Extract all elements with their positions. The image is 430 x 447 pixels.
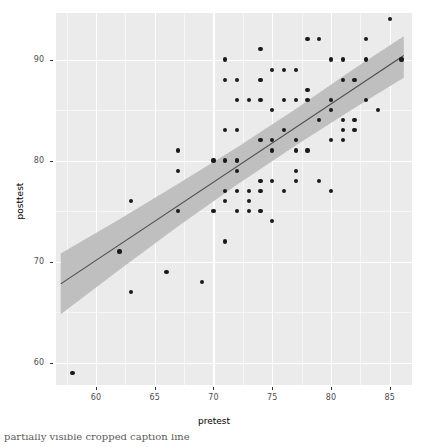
data-point xyxy=(282,98,286,102)
y-tick-mark xyxy=(50,262,53,263)
data-point xyxy=(223,158,227,162)
data-point xyxy=(176,148,180,152)
data-point xyxy=(341,118,345,122)
data-point xyxy=(200,280,204,284)
cropped-caption-strip: partially visible cropped caption line xyxy=(0,434,430,447)
data-point xyxy=(235,169,239,173)
data-point xyxy=(258,78,262,82)
x-tick-label: 80 xyxy=(318,393,344,402)
data-point xyxy=(352,118,356,122)
x-tick-label: 65 xyxy=(142,393,168,402)
data-point xyxy=(247,98,251,102)
y-tick-label: 70 xyxy=(18,257,44,266)
data-point xyxy=(211,158,215,162)
data-point xyxy=(388,17,392,21)
data-point xyxy=(223,239,227,243)
x-tick-mark xyxy=(272,387,273,390)
x-tick-label: 75 xyxy=(259,393,285,402)
x-tick-mark xyxy=(213,387,214,390)
data-point xyxy=(176,169,180,173)
x-tick-mark xyxy=(331,387,332,390)
data-point xyxy=(235,78,239,82)
data-point xyxy=(270,148,274,152)
data-point xyxy=(282,189,286,193)
data-point xyxy=(294,148,298,152)
x-tick-label: 85 xyxy=(377,393,403,402)
y-axis-title: posttest xyxy=(15,171,25,231)
data-point xyxy=(294,179,298,183)
y-tick-mark xyxy=(50,161,53,162)
data-point xyxy=(282,68,286,72)
data-point xyxy=(223,57,227,61)
data-point xyxy=(117,249,121,253)
y-tick-label: 60 xyxy=(18,358,44,367)
data-point xyxy=(235,189,239,193)
data-point xyxy=(399,57,403,61)
caption-text: partially visible cropped caption line xyxy=(4,434,190,442)
data-point xyxy=(329,57,333,61)
data-point xyxy=(305,98,309,102)
data-point xyxy=(294,98,298,102)
x-axis-title: pretest xyxy=(174,416,254,426)
y-tick-mark xyxy=(50,363,53,364)
data-point xyxy=(70,371,74,375)
data-point xyxy=(364,57,368,61)
y-tick-mark xyxy=(50,60,53,61)
data-point xyxy=(294,68,298,72)
data-point xyxy=(305,148,309,152)
data-point xyxy=(341,57,345,61)
y-tick-label: 80 xyxy=(18,156,44,165)
data-point xyxy=(258,189,262,193)
data-point xyxy=(352,128,356,132)
data-point xyxy=(329,189,333,193)
data-point xyxy=(329,98,333,102)
x-tick-mark xyxy=(155,387,156,390)
data-point xyxy=(270,68,274,72)
data-point xyxy=(235,158,239,162)
data-point xyxy=(258,179,262,183)
scatter-plot-figure: posttest pretest 60708090 606570758085 p… xyxy=(0,0,430,447)
confidence-band xyxy=(56,13,412,385)
plot-panel xyxy=(56,13,412,385)
x-tick-label: 70 xyxy=(200,393,226,402)
x-tick-mark xyxy=(96,387,97,390)
data-point xyxy=(258,98,262,102)
data-point xyxy=(258,209,262,213)
data-point xyxy=(247,209,251,213)
data-point xyxy=(352,78,356,82)
x-tick-mark xyxy=(390,387,391,390)
data-point xyxy=(294,169,298,173)
data-point xyxy=(247,199,251,203)
data-point xyxy=(305,37,309,41)
data-point xyxy=(247,189,251,193)
data-point xyxy=(235,98,239,102)
data-point xyxy=(211,209,215,213)
x-tick-label: 60 xyxy=(83,393,109,402)
data-point xyxy=(305,88,309,92)
y-tick-label: 90 xyxy=(18,55,44,64)
data-point xyxy=(164,270,168,274)
data-point xyxy=(341,78,345,82)
